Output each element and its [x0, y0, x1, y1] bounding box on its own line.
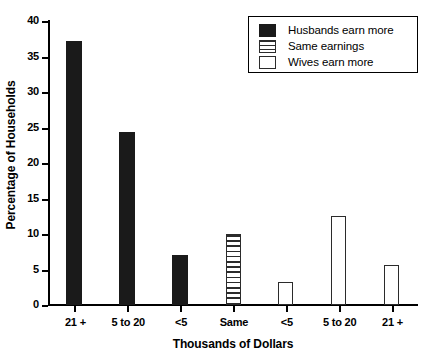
y-tick: 25	[0, 128, 48, 129]
x-tick-mark	[74, 306, 76, 312]
y-tick-label: 40	[27, 13, 39, 28]
y-tick-label: 10	[27, 226, 39, 241]
x-tick-mark	[180, 306, 182, 312]
x-tick-mark	[127, 306, 129, 312]
y-tick-label: 15	[27, 191, 39, 206]
bar-chart: Percentage of Households 051015202530354…	[0, 0, 425, 362]
legend-label: Wives earn more	[288, 55, 373, 69]
y-tick-label: 5	[33, 262, 39, 277]
legend-swatch-open	[259, 56, 276, 69]
x-tick-label: 21 +	[352, 316, 425, 328]
bar	[119, 132, 135, 305]
bar	[384, 265, 399, 305]
y-tick: 20	[0, 163, 48, 164]
legend-label: Same earnings	[288, 39, 364, 53]
legend-item: Wives earn more	[249, 54, 417, 70]
x-tick-mark	[392, 306, 394, 312]
y-tick: 40	[0, 21, 48, 22]
x-tick-mark	[233, 306, 235, 312]
y-tick-label: 20	[27, 155, 39, 170]
y-tick-label: 30	[27, 84, 39, 99]
y-tick: 35	[0, 57, 48, 58]
y-tick-label: 25	[27, 120, 39, 135]
legend-item: Husbands earn more	[249, 22, 417, 38]
y-tick: 15	[0, 199, 48, 200]
y-tick: 5	[0, 270, 48, 271]
y-tick: 0	[0, 305, 48, 306]
x-tick-mark	[339, 306, 341, 312]
legend-item: Same earnings	[249, 38, 417, 54]
y-tick: 30	[0, 92, 48, 93]
legend-label: Husbands earn more	[288, 23, 394, 37]
chart-legend: Husbands earn moreSame earningsWives ear…	[248, 16, 418, 73]
y-tick-label: 0	[33, 297, 39, 312]
x-tick-mark	[286, 306, 288, 312]
y-axis-label: Percentage of Households	[2, 5, 20, 305]
y-tick-label: 35	[27, 49, 39, 64]
bar	[66, 41, 82, 305]
legend-swatch-striped	[259, 40, 276, 53]
legend-swatch-solid	[259, 24, 276, 37]
bar	[226, 234, 241, 305]
bar	[278, 282, 293, 305]
y-tick: 10	[0, 234, 48, 235]
bar	[172, 255, 188, 305]
x-axis-label: Thousands of Dollars	[48, 337, 418, 351]
bar	[331, 216, 346, 305]
y-tick-mark	[42, 305, 48, 307]
